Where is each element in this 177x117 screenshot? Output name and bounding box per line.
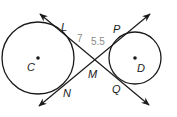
point-label-l: L — [61, 21, 67, 33]
point-label-c: C — [27, 61, 35, 73]
measure-lm: 7 — [77, 33, 83, 44]
point-label-p: P — [113, 23, 121, 35]
tangent-circles-diagram: L P C D M N Q 7 5.5 — [0, 0, 177, 117]
point-label-m: M — [88, 68, 98, 80]
center-c-dot — [36, 56, 40, 60]
diagram-canvas: L P C D M N Q 7 5.5 — [0, 0, 177, 117]
center-d-dot — [133, 56, 137, 60]
point-label-d: D — [137, 62, 145, 74]
point-label-q: Q — [112, 83, 121, 95]
measure-mp: 5.5 — [91, 36, 105, 47]
point-label-n: N — [63, 87, 71, 99]
